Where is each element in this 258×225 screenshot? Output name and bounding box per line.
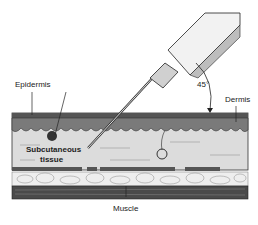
muscle-layer [12, 186, 248, 199]
label-muscle: Muscle [113, 205, 138, 213]
fascia-bars [12, 167, 220, 171]
label-dermis: Dermis [225, 96, 250, 104]
fat-layer [12, 172, 248, 186]
diagram-canvas [0, 0, 258, 225]
label-subcutaneous: Subcutaneous [26, 146, 81, 154]
injection-diagram: Epidermis 45° Dermis Subcutaneous tissue… [0, 0, 258, 225]
needle-hub [150, 63, 178, 88]
label-tissue: tissue [40, 156, 63, 164]
epidermis-layer [12, 113, 248, 118]
label-angle: 45° [197, 81, 209, 89]
label-epidermis: Epidermis [15, 81, 51, 89]
angle-arrow-icon [207, 108, 213, 113]
